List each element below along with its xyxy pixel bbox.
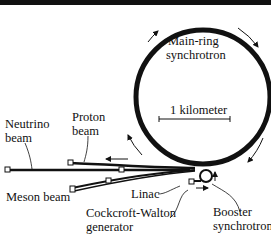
cw-label-line1: Cockcroft-Walton: [86, 206, 176, 220]
neutrino-leader: [25, 143, 32, 169]
ring-arrow-top-left: [148, 31, 158, 42]
linac-leader: [158, 186, 180, 194]
ring-arrow-bottom-left: [128, 135, 142, 155]
neutrino-label-line2: beam: [5, 131, 32, 145]
booster-label-line1: Booster: [213, 205, 252, 219]
proton-target: [68, 160, 73, 165]
booster-label-line2: synchrotron: [213, 219, 271, 233]
proton-label-line2: beam: [72, 124, 99, 138]
main-ring-label-line2: synchrotron: [166, 48, 226, 62]
proton-leader: [84, 136, 88, 162]
meson-target: [70, 186, 75, 192]
cw-label-line2: generator: [86, 220, 133, 234]
proton-beamline: [70, 163, 195, 168]
diagram-root: Main-ring synchrotron 1 kilometer Neutri…: [0, 0, 271, 234]
neutrino-label-line1: Neutrino: [5, 117, 49, 131]
proton-label-line1: Proton: [72, 110, 105, 124]
meson-label: Meson beam: [6, 190, 70, 204]
meson-station: [106, 178, 111, 183]
neutrino-target: [5, 167, 10, 172]
booster-ring: [200, 170, 212, 182]
beam-station: [119, 167, 124, 172]
cockcroft-walton-box: [189, 179, 194, 184]
linac-label: Linac: [131, 187, 159, 201]
scale-label: 1 kilometer: [170, 103, 227, 117]
main-ring-label-line1: Main-ring: [168, 34, 219, 48]
